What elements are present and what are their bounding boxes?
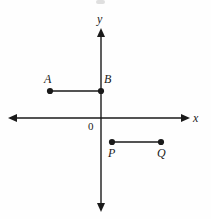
top-edge-artifact [96,0,105,4]
point-b-dot [98,88,104,94]
point-a-dot [47,88,53,94]
point-label-a: A [44,73,51,85]
y-axis-bottom-arrow-icon [97,203,105,212]
point-label-p: P [108,147,115,159]
point-p-dot [109,139,115,145]
x-axis-right-arrow-icon [181,114,190,122]
point-q-dot [158,139,164,145]
point-label-q: Q [157,147,166,159]
point-label-b: B [104,73,111,85]
x-axis-label: x [193,112,198,124]
coordinate-plane-figure: y x 0 A B P Q [0,0,211,219]
coordinate-plane-svg [0,0,211,219]
y-axis-label: y [97,13,102,25]
x-axis-left-arrow-icon [8,114,17,122]
y-axis-top-arrow-icon [97,28,105,37]
origin-label: 0 [88,121,94,132]
